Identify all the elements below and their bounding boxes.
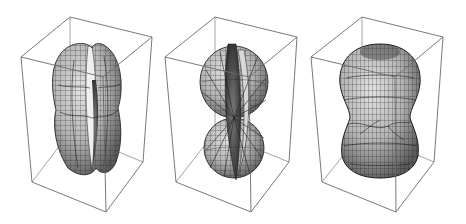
panel-2 — [165, 17, 297, 212]
panel-3 — [311, 17, 443, 212]
panel-1 — [21, 17, 152, 212]
figure-canvas — [0, 0, 466, 224]
surface-plot-1 — [53, 43, 122, 174]
surface-plot-3 — [340, 44, 420, 178]
surface-plot-2 — [200, 44, 268, 180]
